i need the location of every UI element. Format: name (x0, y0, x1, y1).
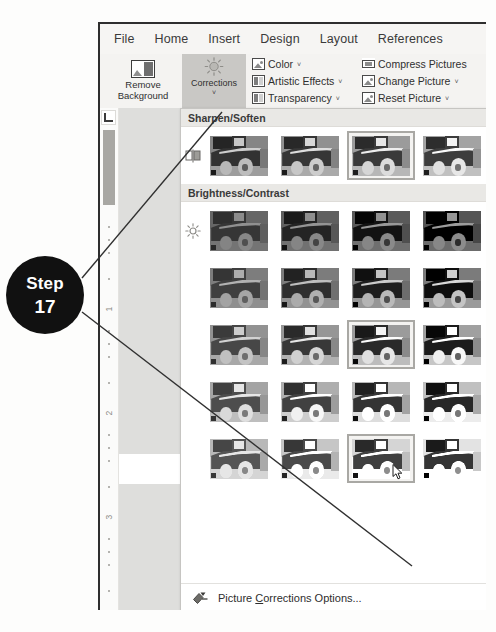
picture-thumbnail (281, 325, 339, 365)
gallery-thumbnail-row (205, 434, 486, 483)
brightness-icon (185, 223, 201, 239)
gallery-thumbnail-item[interactable] (205, 263, 273, 312)
gallery-thumbnail-item[interactable] (205, 434, 273, 483)
picture-thumbnail (423, 211, 481, 251)
gallery-thumbnail-item[interactable] (347, 263, 415, 312)
picture-thumbnail (281, 211, 339, 251)
gallery-thumbnail-row (205, 263, 486, 312)
gallery-row (181, 259, 486, 316)
gallery-thumbnail-item[interactable] (418, 434, 486, 483)
chevron-down-icon[interactable]: ˅ (445, 95, 449, 102)
compress-pictures-command[interactable]: Compress Pictures (362, 56, 486, 72)
ruler-top-margin-band[interactable] (103, 130, 115, 205)
picture-corrections-options-icon (191, 590, 209, 606)
artistic-effects-label: Artistic Effects (268, 75, 334, 87)
chevron-down-icon[interactable]: ˅ (338, 78, 342, 85)
gallery-thumbnail-row (205, 320, 486, 369)
gallery-thumbnail-item[interactable] (347, 320, 415, 369)
picture-thumbnail (352, 211, 410, 251)
corrections-gallery-dropdown: Sharpen/SoftenBrightness/Contrast Pictur… (180, 108, 486, 610)
sharpen-icon (185, 149, 201, 163)
vertical-ruler[interactable]: 1 2 3 (100, 108, 119, 610)
tab-home[interactable]: Home (155, 32, 189, 46)
transparency-icon (252, 92, 265, 104)
gallery-thumbnail-item[interactable] (276, 434, 344, 483)
chevron-down-icon[interactable]: ˅ (336, 95, 340, 102)
tab-references[interactable]: References (378, 32, 443, 46)
picture-thumbnail (210, 439, 268, 479)
chevron-down-icon[interactable]: ˅ (212, 90, 216, 96)
gallery-thumbnail-row (205, 206, 486, 255)
picture-thumbnail (210, 325, 268, 365)
transparency-command[interactable]: Transparency ˅ (252, 90, 362, 106)
gallery-thumbnail-item[interactable] (347, 377, 415, 426)
color-picture-icon (252, 58, 265, 70)
gallery-thumbnail-item[interactable] (418, 206, 486, 255)
remove-background-button[interactable]: Remove Background (106, 56, 180, 106)
gallery-thumbnail-item[interactable] (276, 206, 344, 255)
gallery-thumbnail-item[interactable] (205, 377, 273, 426)
step-callout-word: Step (26, 275, 64, 292)
gallery-row (181, 202, 486, 259)
picture-thumbnail (281, 439, 339, 479)
gallery-thumbnail-item[interactable] (205, 320, 273, 369)
word-screenshot: File Home Insert Design Layout Reference… (98, 22, 486, 610)
artistic-effects-command[interactable]: Artistic Effects ˅ (252, 73, 362, 89)
gallery-thumbnail-item[interactable] (276, 263, 344, 312)
remove-background-label-line2: Background (118, 91, 169, 102)
picture-corrections-options-item[interactable]: Picture Corrections Options... (181, 583, 486, 610)
color-command[interactable]: Color ˅ (252, 56, 362, 72)
picture-thumbnail (281, 382, 339, 422)
mouse-cursor-icon (392, 464, 403, 480)
picture-thumbnail (352, 325, 410, 365)
picture-thumbnail (281, 136, 339, 176)
reset-picture-icon (362, 92, 375, 104)
compress-pictures-label: Compress Pictures (378, 58, 467, 70)
tab-design[interactable]: Design (260, 32, 300, 46)
gallery-thumbnail-item[interactable] (347, 206, 415, 255)
gallery-thumbnail-item[interactable] (418, 320, 486, 369)
tab-layout[interactable]: Layout (320, 32, 358, 46)
reset-picture-command[interactable]: Reset Picture ˅ (362, 90, 486, 106)
gallery-thumbnail-item[interactable] (276, 377, 344, 426)
picture-thumbnail (281, 268, 339, 308)
gallery-thumbnail-item[interactable] (347, 434, 415, 483)
gallery-thumbnail-item[interactable] (205, 131, 273, 180)
picture-thumbnail (210, 382, 268, 422)
ribbon-tab-bar: File Home Insert Design Layout Reference… (100, 24, 486, 54)
compress-pictures-icon (362, 58, 375, 70)
picture-thumbnail (423, 136, 481, 176)
gallery-row (181, 430, 486, 487)
gallery-section-header: Sharpen/Soften (181, 109, 486, 127)
corrections-button[interactable]: Corrections ˅ (182, 54, 246, 108)
gallery-thumbnail-item[interactable] (347, 131, 415, 180)
reset-picture-label: Reset Picture (378, 92, 441, 104)
change-picture-icon (362, 75, 375, 87)
chevron-down-icon[interactable]: ˅ (297, 61, 301, 68)
tab-stop-selector[interactable] (101, 110, 116, 125)
tab-file[interactable]: File (114, 32, 135, 46)
tab-insert[interactable]: Insert (208, 32, 240, 46)
transparency-label: Transparency (268, 92, 332, 104)
gallery-thumbnail-item[interactable] (205, 206, 273, 255)
ruler-mark-2: 2 (104, 406, 114, 420)
picture-thumbnail (352, 382, 410, 422)
gallery-thumbnail-row (205, 131, 486, 180)
remove-background-label-line1: Remove (125, 80, 160, 91)
sun-icon (203, 57, 225, 77)
gallery-thumbnail-item[interactable] (418, 377, 486, 426)
gallery-thumbnail-item[interactable] (418, 131, 486, 180)
color-label: Color (268, 58, 293, 70)
gallery-row (181, 373, 486, 430)
picture-thumbnail (423, 325, 481, 365)
adjust-command-column-2: Compress Pictures Change Picture ˅ Reset… (362, 56, 486, 107)
change-picture-command[interactable]: Change Picture ˅ (362, 73, 486, 89)
ribbon-adjust-group: Remove Background (100, 54, 486, 109)
chevron-down-icon[interactable]: ˅ (454, 78, 458, 85)
corrections-label: Corrections (191, 78, 237, 89)
gallery-thumbnail-item[interactable] (276, 131, 344, 180)
picture-thumbnail (210, 268, 268, 308)
picture-icon (131, 60, 155, 78)
gallery-thumbnail-item[interactable] (418, 263, 486, 312)
gallery-thumbnail-item[interactable] (276, 320, 344, 369)
